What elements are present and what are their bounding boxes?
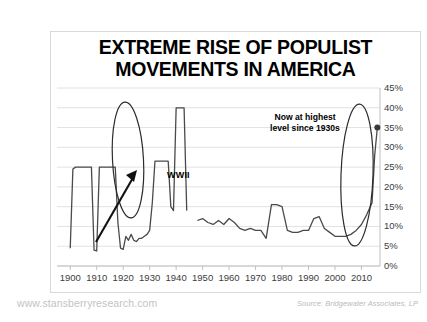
y-axis-tick-label: 10% xyxy=(384,221,403,231)
x-axis-tick-label: 1990 xyxy=(298,272,319,283)
x-axis-tick-label: 1980 xyxy=(271,272,292,283)
x-axis-tick-label: 1970 xyxy=(245,272,266,283)
x-axis-labels: 1900191019201930194019501960197019801990… xyxy=(0,272,427,288)
x-axis-tick-label: 1920 xyxy=(113,272,134,283)
annotation-highest-line-1: Now at highest xyxy=(253,112,357,123)
chart-screenshot: EXTREME RISE OF POPULIST MOVEMENTS IN AM… xyxy=(0,0,427,322)
x-axis-tick-label: 1960 xyxy=(219,272,240,283)
y-axis-tick-label: 0% xyxy=(384,261,398,271)
x-axis-tick-label: 1940 xyxy=(166,272,187,283)
annotation-highest-level: Now at highest level since 1930s xyxy=(253,112,357,133)
y-axis-tick-label: 5% xyxy=(384,241,398,251)
y-axis-tick-label: 25% xyxy=(384,162,403,172)
latest-value-marker xyxy=(374,125,380,131)
footer-source: Source: Bridgewater Associates, LP xyxy=(297,299,418,308)
footer-website: www.stansberryresearch.com xyxy=(17,297,157,309)
y-axis-tick-label: 45% xyxy=(384,83,403,93)
data-line-modern xyxy=(197,128,377,239)
annotation-wwii: WWII xyxy=(167,170,190,180)
x-axis-ticks xyxy=(70,266,361,270)
x-axis-tick-label: 1950 xyxy=(192,272,213,283)
x-axis-tick-label: 2010 xyxy=(351,272,372,283)
x-axis-tick-label: 2000 xyxy=(324,272,345,283)
annotation-highest-line-2: level since 1930s xyxy=(253,123,357,134)
y-axis-tick-label: 30% xyxy=(384,142,403,152)
highlight-ellipse-wwii xyxy=(109,101,146,218)
y-axis-tick-label: 15% xyxy=(384,202,403,212)
x-axis-tick-label: 1910 xyxy=(86,272,107,283)
y-axis-labels: 0%5%10%15%20%25%30%35%40%45% xyxy=(384,80,424,276)
y-axis-tick-label: 20% xyxy=(384,182,403,192)
y-axis-tick-label: 35% xyxy=(384,123,403,133)
x-axis-tick-label: 1930 xyxy=(139,272,160,283)
x-axis-tick-label: 1900 xyxy=(60,272,81,283)
y-axis-tick-label: 40% xyxy=(384,103,403,113)
